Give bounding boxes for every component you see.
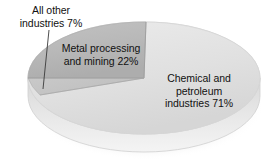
slice-label-chemical-and-petroleum-industries: Chemical and petroleum industries 71% bbox=[144, 72, 254, 110]
slice-label-metal-processing-and-mining: Metal processing and mining 22% bbox=[46, 42, 156, 67]
slice-label-all-other-industries: All other industries 7% bbox=[4, 4, 98, 29]
pie-chart-figure: All other industries 7% Metal processing… bbox=[0, 0, 275, 168]
